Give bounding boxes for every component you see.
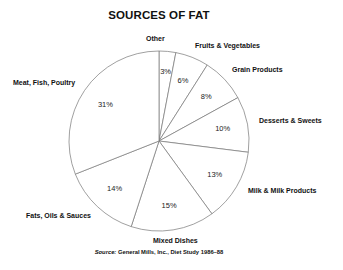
pie-chart: 3%6%8%10%13%15%14%31% xyxy=(0,0,343,270)
slice-percent-label: 15% xyxy=(162,201,177,210)
source-note: Source: General Mills, Inc., Diet Study … xyxy=(0,249,318,255)
source-prefix: Source: xyxy=(95,249,117,255)
slice-label-milk-products: Milk & Milk Products xyxy=(248,187,316,194)
slice-label-grain-products: Grain Products xyxy=(232,66,283,73)
slice-label-desserts-sweets: Desserts & Sweets xyxy=(259,117,322,124)
slice-percent-label: 10% xyxy=(215,124,230,133)
source-text: General Mills, Inc., Diet Study 1986–88 xyxy=(118,249,223,255)
slice-label-meat-fish-poultry: Meat, Fish, Poultry xyxy=(13,79,75,86)
slice-percent-label: 8% xyxy=(201,92,212,101)
slice-percent-label: 3% xyxy=(160,67,171,76)
slice-percent-label: 13% xyxy=(207,170,222,179)
slice-label-fruits-vegetables: Fruits & Vegetables xyxy=(195,42,260,49)
slice-label-other: Other xyxy=(146,35,165,42)
slice-label-fats-oils-sauces: Fats, Oils & Sauces xyxy=(26,212,91,219)
slice-percent-label: 31% xyxy=(98,100,113,109)
slice-percent-label: 6% xyxy=(177,76,188,85)
slice-label-mixed-dishes: Mixed Dishes xyxy=(153,237,198,244)
slice-percent-label: 14% xyxy=(107,184,122,193)
